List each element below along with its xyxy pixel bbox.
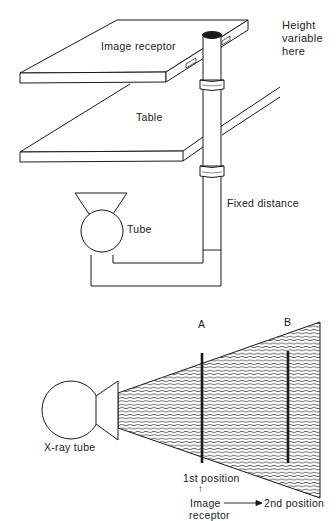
label-tube: Tube	[127, 223, 152, 235]
label-first-position: 1st position	[183, 472, 240, 484]
tube-icon	[75, 193, 127, 252]
move-arrow	[224, 501, 262, 506]
table-plate	[20, 84, 280, 162]
label-position-b: B	[284, 316, 291, 328]
label-table: Table	[136, 111, 163, 123]
label-image: Image	[190, 497, 221, 509]
arrow-up-icon: ↑	[198, 483, 203, 495]
label-height-variable-1: Height	[282, 19, 316, 31]
x-ray-tube-icon	[42, 381, 118, 440]
label-second-position: 2nd position	[264, 497, 324, 509]
label-image-receptor: Image receptor	[101, 40, 176, 52]
label-x-ray-tube: X-ray tube	[44, 441, 95, 453]
column-pole	[200, 32, 224, 251]
label-height-variable-2: variable	[282, 32, 323, 44]
tube-arm	[91, 250, 221, 286]
label-position-a: A	[198, 318, 205, 330]
label-height-variable-3: here	[282, 45, 305, 57]
label-receptor: receptor	[189, 509, 230, 521]
label-fixed-distance: Fixed distance	[227, 197, 299, 209]
